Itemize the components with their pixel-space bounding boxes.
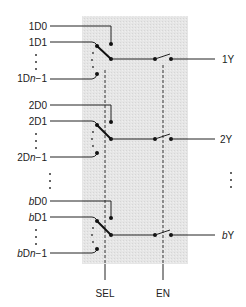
input-label-2dn-1: 2Dn−1 xyxy=(17,152,47,163)
input-label-1dn-1: 1Dn−1 xyxy=(17,73,47,84)
en-label: EN xyxy=(156,288,170,299)
ellipsis-icon xyxy=(35,133,37,149)
output-label-1y: 1Y xyxy=(222,54,235,65)
output-label-2y: 2Y xyxy=(220,134,233,145)
input-label-1d1: 1D1 xyxy=(29,37,48,48)
input-label-2d1: 2D1 xyxy=(29,116,48,127)
input-label-bdn-1: bDn−1 xyxy=(17,248,47,259)
input-label-bd1: bD1 xyxy=(29,212,48,223)
ellipsis-icon xyxy=(35,229,37,245)
ellipsis-icon xyxy=(35,54,37,70)
ellipsis-icon xyxy=(230,172,232,188)
input-label-bd0: bD0 xyxy=(29,196,48,207)
sel-label: SEL xyxy=(96,288,115,299)
multiplexer-switch-diagram: 1D0 1D1 1Dn−1 1Y 2D0 2D1 xyxy=(0,0,246,307)
input-label-2d0: 2D0 xyxy=(29,100,48,111)
input-label-1d0: 1D0 xyxy=(29,21,48,32)
ellipsis-icon xyxy=(49,173,51,189)
output-label-by: bY xyxy=(222,230,235,241)
